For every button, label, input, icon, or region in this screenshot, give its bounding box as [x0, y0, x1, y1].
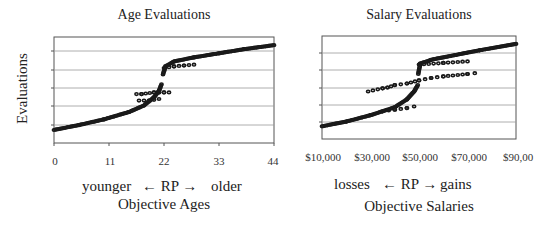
salary-chart-title: Salary Evaluations [322, 7, 516, 23]
age-direction-younger: younger [82, 178, 131, 195]
salary-direction-losses: losses [334, 176, 370, 193]
salary-x-tick: $10,000 [305, 151, 341, 163]
age-direction-older: older [211, 178, 242, 195]
salary-data-markers [320, 43, 517, 128]
age-ticks [51, 51, 274, 146]
salary-direction-gains: gains [440, 176, 472, 193]
age-x-tick: 0 [52, 155, 58, 167]
age-x-tick: 44 [268, 155, 279, 167]
salary-direction-rp: ← RP → [382, 176, 437, 193]
age-x-tick: 22 [159, 155, 170, 167]
salary-x-tick: $70,000 [451, 151, 487, 163]
age-x-tick: 33 [214, 155, 225, 167]
salary-x-tick: $30,000 [354, 151, 390, 163]
age-x-tick: 11 [105, 155, 116, 167]
salary-plot-area [319, 36, 518, 139]
salary-x-axis-title: Objective Salaries [322, 198, 516, 215]
age-gridlines [54, 51, 274, 125]
age-direction-rp: ← RP → [142, 178, 197, 195]
salary-x-tick: $90,00 [503, 151, 533, 163]
salary-x-tick: $50,000 [402, 151, 438, 163]
age-x-axis-title: Objective Ages [54, 196, 274, 213]
age-plot-area [51, 37, 276, 146]
